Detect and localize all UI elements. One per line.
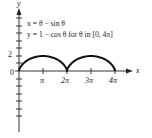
y-tick-label-2: 2 [8, 51, 12, 59]
y-axis-label: y [17, 0, 21, 8]
x-tick-label-2pi: 2π [61, 77, 69, 85]
equation-y: y = 1 − cos θ for θ in [0, 4π] [27, 31, 113, 39]
origin-label: 0 [10, 69, 14, 77]
x-axis-label: x [136, 67, 140, 75]
y-axis-arrow-icon [17, 8, 22, 15]
x-axis-arrow-icon [126, 69, 133, 74]
x-tick-label-pi: π [40, 77, 44, 85]
cycloid-plot [0, 0, 152, 138]
equation-x: x = θ − sin θ [27, 20, 65, 28]
cycloid-curve [19, 56, 115, 71]
x-tick-label-4pi: 4π [109, 77, 117, 85]
x-tick-label-3pi: 3π [85, 77, 93, 85]
